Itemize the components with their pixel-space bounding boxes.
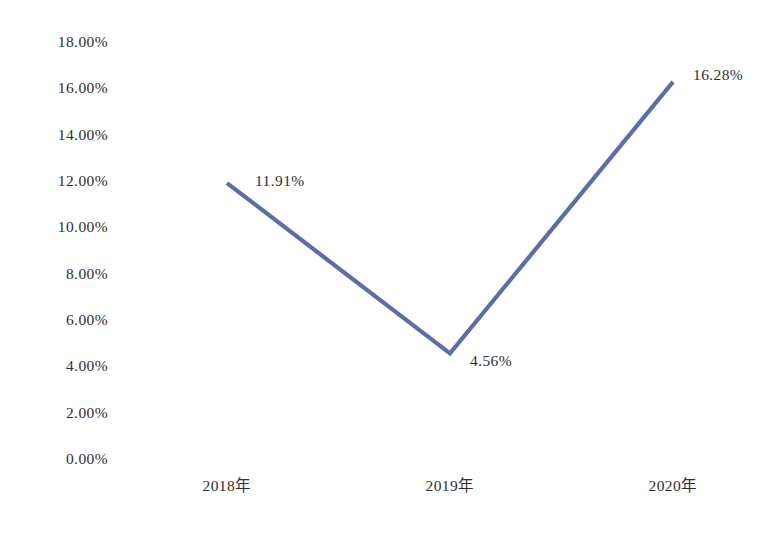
- x-axis-tick-labels: 2018年2019年2020年: [0, 478, 781, 508]
- data-point-label: 16.28%: [693, 67, 743, 83]
- plot-area: [0, 0, 781, 533]
- x-axis-tick-label: 2018年: [203, 478, 252, 494]
- line-chart: 18.00%16.00%14.00%12.00%10.00%8.00%6.00%…: [0, 0, 781, 533]
- x-axis-tick-label: 2020年: [649, 478, 698, 494]
- series-line: [227, 82, 673, 354]
- data-point-label: 4.56%: [470, 354, 512, 370]
- data-point-label: 11.91%: [255, 173, 305, 189]
- x-axis-tick-label: 2019年: [426, 478, 475, 494]
- series-line-svg: [0, 0, 781, 533]
